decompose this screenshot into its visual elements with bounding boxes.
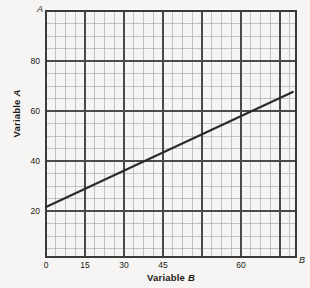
plot-background [46, 11, 296, 257]
x-tick-label-15: 15 [72, 260, 98, 270]
y-tick-label-20: 20 [14, 206, 40, 216]
x-tick-label-45: 45 [150, 260, 176, 270]
x-tick-label-30: 30 [111, 260, 137, 270]
chart-container: A B 80 60 40 20 0 15 30 45 60 Variable A… [0, 0, 310, 288]
y-tick-label-40: 40 [14, 156, 40, 166]
plot-area [0, 0, 310, 288]
y-axis-title-text: Variable [11, 97, 22, 138]
y-axis-title: Variable A [11, 74, 22, 154]
y-tick-label-80: 80 [14, 56, 40, 66]
x-axis-title-variable: B [188, 272, 195, 283]
x-axis-title-text: Variable [147, 272, 188, 283]
x-axis-title: Variable B [46, 272, 296, 283]
y-axis-end-label: A [37, 4, 43, 14]
x-tick-label-60: 60 [228, 260, 254, 270]
x-tick-label-0: 0 [33, 260, 59, 270]
x-axis-end-label: B [299, 255, 305, 265]
y-axis-title-variable: A [11, 90, 22, 97]
